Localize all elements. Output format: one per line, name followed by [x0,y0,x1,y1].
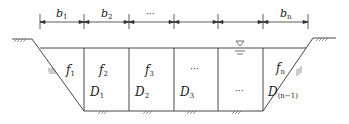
section-d2: D2 [134,85,149,100]
channel-cross-section-diagram: b1 b2 ··· bn [0,0,349,124]
section-f2: f2 [98,63,108,78]
dim-label-ellipsis: ··· [146,9,155,19]
dim-label-b1: b1 [56,7,68,21]
section-fn: fn [275,61,285,76]
channel-outline [12,38,336,111]
dim-label-b2: b2 [101,7,113,21]
section-dn-minus-1: D(n−1) [267,85,298,100]
section-f-ellipsis: ··· [190,64,199,74]
section-d-ellipsis: ··· [235,86,244,96]
section-d3: D3 [179,85,194,100]
ground-hatch-icon [14,38,328,114]
dimension-line [40,14,308,29]
section-f3: f3 [144,63,154,78]
dim-label-bn: bn [280,7,292,21]
section-f1: f1 [65,63,75,78]
section-d1: D1 [89,85,104,100]
water-level-icon [235,41,245,54]
